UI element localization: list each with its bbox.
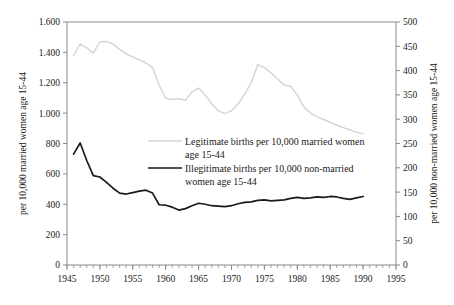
y-axis-left-title: per 10,000 married women age 15-44 <box>18 72 28 215</box>
y-axis-left-tick-label: 800 <box>46 139 61 149</box>
line-chart: 02004006008001.0001.2001.4001.600 050100… <box>0 0 454 305</box>
y-axis-left-tick-label: 400 <box>46 200 61 210</box>
y-axis-left-tick-label: 1.600 <box>39 17 61 27</box>
y-axis-left-tick-label: 1.200 <box>39 78 61 88</box>
y-axis-left-tick-label: 1.000 <box>39 109 61 119</box>
legend-label-legitimate-line2: age 15-44 <box>185 149 225 160</box>
y-axis-right-tick-label: 500 <box>403 17 418 27</box>
series-line-legitimate-births <box>74 41 364 133</box>
chart-container: 02004006008001.0001.2001.4001.600 050100… <box>0 0 454 305</box>
x-axis-tick-label: 1995 <box>387 274 406 284</box>
y-axis-right-tick-label: 100 <box>403 212 418 222</box>
chart-legend: Legitimate births per 10,000 married wom… <box>148 136 364 187</box>
x-axis-tick-label: 1970 <box>222 274 241 284</box>
x-axis-tick-label: 1955 <box>123 274 142 284</box>
x-axis-tick-label: 1980 <box>288 274 307 284</box>
y-axis-right-tick-label: 0 <box>403 260 408 270</box>
x-axis-tick-label: 1950 <box>90 274 109 284</box>
y-axis-right-tick-label: 400 <box>403 66 418 76</box>
y-axis-right-labels: 050100150200250300350400450500 <box>403 17 418 270</box>
y-axis-left-tick-label: 1.400 <box>39 48 61 58</box>
x-axis-tick-label: 1985 <box>321 274 340 284</box>
y-axis-right-tick-label: 150 <box>403 188 418 198</box>
y-axis-left-tick-label: 0 <box>55 260 60 270</box>
legend-label-illegitimate-line1: Illegitimate births per 10,000 non-marri… <box>185 163 354 174</box>
x-axis-major-ticks <box>67 265 396 270</box>
y-axis-right-tick-label: 250 <box>403 139 418 149</box>
y-axis-left-tick-label: 600 <box>46 169 61 179</box>
legend-label-legitimate-line1: Legitimate births per 10,000 married wom… <box>185 136 364 147</box>
y-axis-right-tick-label: 300 <box>403 115 418 125</box>
y-axis-right-tick-label: 200 <box>403 163 418 173</box>
x-axis-tick-label: 1990 <box>354 274 373 284</box>
y-axis-left-labels: 02004006008001.0001.2001.4001.600 <box>39 17 61 270</box>
y-axis-right-tick-label: 350 <box>403 90 418 100</box>
x-axis-tick-label: 1975 <box>255 274 274 284</box>
y-axis-left-ticks <box>63 22 67 265</box>
y-axis-right-tick-label: 450 <box>403 42 418 52</box>
x-axis-tick-label: 1960 <box>156 274 175 284</box>
y-axis-right-tick-label: 50 <box>403 236 413 246</box>
x-axis-tick-label: 1965 <box>189 274 208 284</box>
y-axis-left-tick-label: 200 <box>46 230 61 240</box>
legend-label-illegitimate-line2: women age 15-44 <box>185 176 257 187</box>
y-axis-right-title: per 10,000 non-married women age 15-44 <box>429 63 439 224</box>
x-axis-tick-label: 1945 <box>58 274 77 284</box>
x-axis-labels: 1945195019551960196519701975198019851990… <box>58 274 406 284</box>
y-axis-right-ticks <box>396 22 400 265</box>
